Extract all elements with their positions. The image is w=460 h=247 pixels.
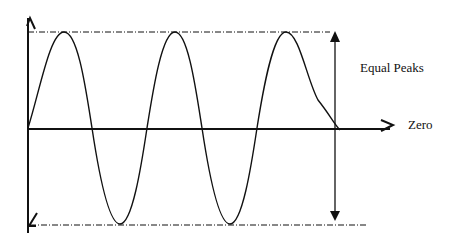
amplitude-arrow-up-icon xyxy=(330,31,340,42)
amplitude-arrow-down-icon xyxy=(330,211,340,221)
zero-label: Zero xyxy=(408,117,433,133)
equal-peaks-label: Equal Peaks xyxy=(360,60,424,76)
y-axis-bottom-arrow-icon xyxy=(29,213,37,226)
sine-wave-diagram xyxy=(0,0,460,247)
